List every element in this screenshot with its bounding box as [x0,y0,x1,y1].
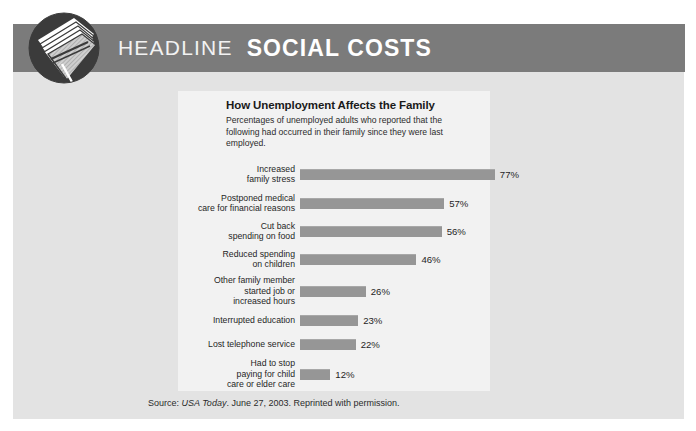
bar-track: 23% [300,315,490,326]
bar-row: Cut back spending on food56% [178,217,490,245]
bar-row: Interrupted education23% [178,309,490,331]
bar-value-label: 23% [363,315,382,326]
bar-track: 56% [300,226,490,237]
bar-category-label: Had to stop paying for child care or eld… [178,358,300,389]
newspaper-circle-logo-icon [28,12,100,84]
bar-row: Reduced spending on children46% [178,245,490,273]
bar-category-label: Lost telephone service [178,339,300,349]
bar-track: 57% [300,198,490,209]
chart-panel: How Unemployment Affects the Family Perc… [178,91,490,391]
header-title: HEADLINE SOCIAL COSTS [118,24,432,72]
bar-category-label: Postponed medical care for financial rea… [178,193,300,214]
figure-container: HEADLINE SOCIAL COSTS How Unemployment A… [0,0,696,431]
bar-track: 12% [300,369,490,380]
bar-category-label: Cut back spending on food [178,221,300,242]
bar-track: 77% [300,169,519,180]
source-publication: USA Today [182,398,227,408]
bar-fill [300,286,366,297]
bar-category-label: Increased family stress [178,164,300,185]
bar-row: Postponed medical care for financial rea… [178,189,490,217]
bar-row: Lost telephone service22% [178,331,490,357]
bar-value-label: 56% [447,226,466,237]
source-prefix: Source: [148,398,182,408]
bar-chart-plot: Increased family stress77%Postponed medi… [178,159,490,391]
bar-track: 22% [300,339,490,350]
bar-fill [300,198,444,209]
header-kicker: HEADLINE [118,36,233,60]
bar-track: 26% [300,286,490,297]
bar-category-label: Other family member started job or incre… [178,275,300,306]
bar-fill [300,315,358,326]
chart-title: How Unemployment Affects the Family [226,99,435,111]
bar-value-label: 12% [335,369,354,380]
bar-category-label: Interrupted education [178,315,300,325]
bar-value-label: 22% [361,339,380,350]
bar-row: Other family member started job or incre… [178,273,490,309]
source-suffix: . June 27, 2003. Reprinted with permissi… [226,398,399,408]
bar-value-label: 77% [500,169,519,180]
bar-value-label: 57% [449,198,468,209]
bar-fill [300,226,442,237]
bar-value-label: 26% [371,286,390,297]
bar-fill [300,369,330,380]
bar-fill [300,339,356,350]
source-credit: Source: USA Today. June 27, 2003. Reprin… [148,398,400,408]
bar-row: Had to stop paying for child care or eld… [178,357,490,391]
bar-category-label: Reduced spending on children [178,249,300,270]
bar-row: Increased family stress77% [178,159,490,189]
bar-track: 46% [300,254,490,265]
header-section-title: SOCIAL COSTS [247,35,432,62]
chart-subtitle: Percentages of unemployed adults who rep… [226,115,476,150]
bar-fill [300,169,495,180]
bar-value-label: 46% [421,254,440,265]
bar-fill [300,254,416,265]
